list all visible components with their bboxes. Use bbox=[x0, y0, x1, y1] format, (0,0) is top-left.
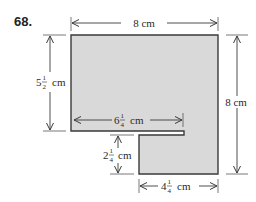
svg-text:6: 6 bbox=[114, 114, 120, 126]
svg-text:2: 2 bbox=[103, 149, 109, 161]
bottom-width-label: 4 1 4 cm bbox=[161, 178, 191, 195]
shaded-shape bbox=[71, 35, 218, 174]
svg-text:2: 2 bbox=[43, 83, 47, 91]
left-height-dimension: 5 1 2 cm bbox=[36, 35, 66, 131]
svg-text:1: 1 bbox=[110, 147, 114, 155]
top-width-label: 8 cm bbox=[133, 17, 155, 29]
composite-shape-figure: 68. 8 cm 5 1 2 cm 8 cm bbox=[0, 0, 256, 202]
lower-gap-label: 2 1 4 cm bbox=[103, 147, 132, 164]
right-height-dimension: 8 cm bbox=[225, 35, 248, 174]
svg-text:4: 4 bbox=[161, 180, 167, 192]
svg-text:4: 4 bbox=[168, 187, 172, 195]
left-height-label: 5 1 2 cm bbox=[36, 74, 66, 91]
problem-number: 68. bbox=[14, 14, 32, 29]
svg-text:cm: cm bbox=[118, 149, 132, 161]
svg-text:1: 1 bbox=[121, 112, 125, 120]
svg-text:5: 5 bbox=[36, 76, 42, 88]
top-width-dimension: 8 cm bbox=[71, 17, 218, 31]
svg-text:cm: cm bbox=[52, 76, 66, 88]
svg-text:1: 1 bbox=[168, 178, 172, 186]
svg-text:4: 4 bbox=[121, 121, 125, 129]
svg-text:4: 4 bbox=[110, 156, 114, 164]
lower-gap-dimension: 2 1 4 cm bbox=[103, 135, 134, 174]
svg-text:1: 1 bbox=[43, 74, 47, 82]
bottom-width-dimension: 4 1 4 cm bbox=[139, 178, 218, 195]
svg-text:cm: cm bbox=[177, 180, 191, 192]
svg-text:cm: cm bbox=[130, 114, 144, 126]
right-height-label: 8 cm bbox=[225, 96, 247, 108]
